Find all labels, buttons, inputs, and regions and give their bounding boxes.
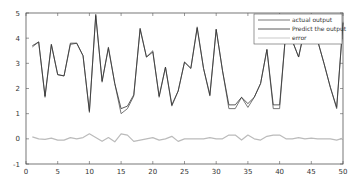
x-tick-label: 45 [307, 168, 316, 176]
legend-label: error [292, 34, 307, 41]
x-tick-label: 35 [243, 168, 252, 176]
y-tick-label: -1 [13, 161, 20, 169]
x-tick-label: 50 [339, 168, 348, 176]
legend-label: Predict the output [292, 25, 347, 33]
legend: actual outputPredict the outputerror [254, 14, 347, 44]
x-tick-label: 25 [180, 168, 189, 176]
x-tick-label: 15 [117, 168, 126, 176]
x-tick-label: 10 [85, 168, 94, 176]
y-tick-label: 0 [16, 135, 20, 143]
line-chart: -1012345 05101520253035404550 actual out… [0, 0, 359, 182]
x-tick-label: 5 [55, 168, 59, 176]
y-tick-label: 2 [16, 85, 20, 93]
x-tick-label: 40 [275, 168, 284, 176]
x-tick-label: 0 [24, 168, 28, 176]
y-tick-label: 1 [16, 110, 20, 118]
y-tick-label: 4 [16, 35, 21, 43]
legend-label: actual output [292, 16, 333, 24]
x-tick-label: 30 [212, 168, 221, 176]
x-tick-label: 20 [148, 168, 157, 176]
y-tick-label: 5 [16, 10, 20, 18]
y-tick-label: 3 [16, 60, 20, 68]
